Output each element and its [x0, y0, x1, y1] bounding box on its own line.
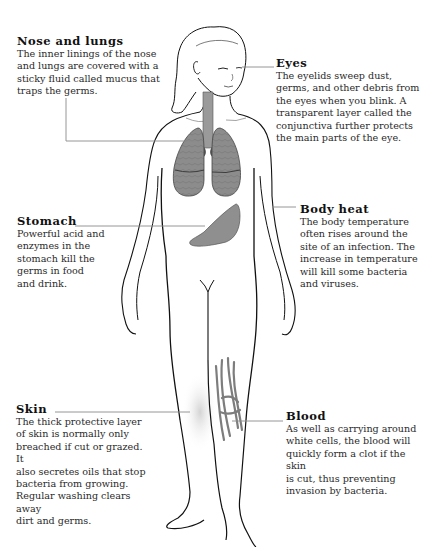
left-torso [161, 168, 180, 420]
callout-eyes: Eyes The eyelids sweep dust, germs, and … [276, 56, 426, 144]
callout-body: As well as carrying around white cells, … [286, 423, 426, 497]
callout-title: Nose and lungs [17, 34, 167, 48]
callout-skin: Skin The thick protective layer of skin … [16, 402, 151, 528]
left-lung [173, 128, 204, 196]
callout-title: Eyes [276, 56, 426, 70]
callout-body: Powerful acid and enzymes in the stomach… [17, 228, 117, 290]
callout-title: Skin [16, 402, 151, 416]
callout-body: The eyelids sweep dust, germs, and other… [276, 70, 426, 144]
left-arm-outer [122, 190, 146, 334]
callout-title: Stomach [17, 214, 117, 228]
body-defenses-diagram: Nose and lungs The inner linings of the … [0, 0, 426, 547]
face-outline [198, 44, 246, 96]
right-arm-outer [272, 196, 295, 335]
callout-stomach: Stomach Powerful acid and enzymes in the… [17, 214, 117, 290]
right-shoulder [238, 114, 272, 196]
stomach-organ [190, 204, 240, 246]
callout-body: The inner linings of the nose and lungs … [17, 48, 167, 98]
leader-nose [66, 98, 196, 141]
right-torso [246, 168, 257, 420]
callout-nose-and-lungs: Nose and lungs The inner linings of the … [17, 34, 167, 98]
callout-title: Blood [286, 409, 426, 423]
callout-body: The thick protective layer of skin is no… [16, 416, 151, 528]
callout-body: The body temperature often rises around … [300, 216, 425, 290]
right-leg [239, 420, 256, 547]
left-arm-inner [137, 176, 158, 320]
eye-icon [218, 68, 228, 69]
trachea [203, 92, 213, 148]
callout-title: Body heat [300, 202, 425, 216]
right-lung [212, 128, 241, 196]
callout-body-heat: Body heat The body temperature often ris… [300, 202, 425, 290]
blood-vessels [216, 358, 242, 440]
callout-blood: Blood As well as carrying around white c… [286, 409, 426, 497]
